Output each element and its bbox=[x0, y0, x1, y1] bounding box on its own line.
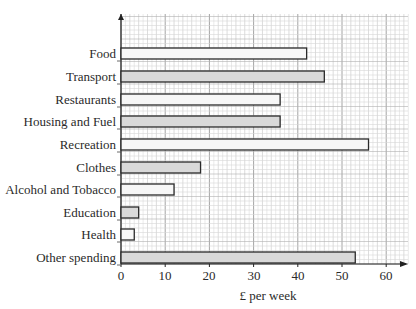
bar-health bbox=[121, 229, 134, 240]
bar-transport bbox=[121, 71, 324, 82]
category-label-food: Food bbox=[89, 47, 116, 61]
x-tick-0: 0 bbox=[118, 268, 125, 284]
bar-housing-and-fuel bbox=[121, 116, 280, 127]
x-axis-label: £ per week bbox=[239, 288, 296, 304]
category-label-transport: Transport bbox=[66, 70, 116, 84]
x-tick-40: 40 bbox=[292, 268, 305, 284]
y-axis-arrow-icon bbox=[118, 14, 124, 20]
x-tick-30: 30 bbox=[248, 268, 261, 284]
x-tick-60: 60 bbox=[380, 268, 393, 284]
bar-food bbox=[121, 48, 307, 59]
x-tick-50: 50 bbox=[336, 268, 349, 284]
category-label-housing-and-fuel: Housing and Fuel bbox=[24, 115, 116, 129]
category-label-health: Health bbox=[81, 228, 116, 242]
category-label-clothes: Clothes bbox=[76, 161, 116, 175]
category-label-recreation: Recreation bbox=[60, 138, 116, 152]
category-label-other-spending: Other spending bbox=[36, 251, 116, 265]
category-label-education: Education bbox=[63, 206, 116, 220]
category-label-restaurants: Restaurants bbox=[55, 93, 116, 107]
x-tick-20: 20 bbox=[203, 268, 216, 284]
bar-recreation bbox=[121, 139, 369, 150]
bar-other-spending bbox=[121, 252, 355, 263]
bar-chart: Food Transport Restaurants Housing and F… bbox=[0, 0, 416, 309]
bar-clothes bbox=[121, 162, 201, 173]
bar-restaurants bbox=[121, 94, 280, 105]
x-tick-10: 10 bbox=[159, 268, 172, 284]
bar-alcohol-and-tobacco bbox=[121, 184, 174, 195]
category-label-alcohol-and-tobacco: Alcohol and Tobacco bbox=[5, 183, 116, 197]
bar-education bbox=[121, 207, 139, 218]
